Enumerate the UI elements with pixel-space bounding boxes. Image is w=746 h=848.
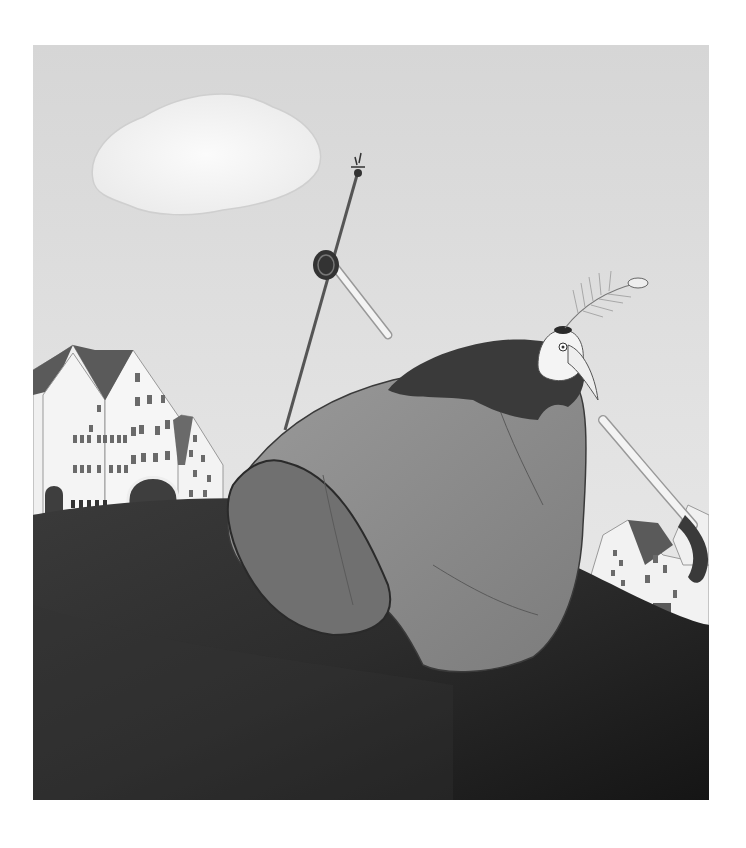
illustration-frame	[33, 45, 709, 800]
watercolor-illustration	[33, 45, 709, 800]
small-hat	[554, 326, 572, 334]
